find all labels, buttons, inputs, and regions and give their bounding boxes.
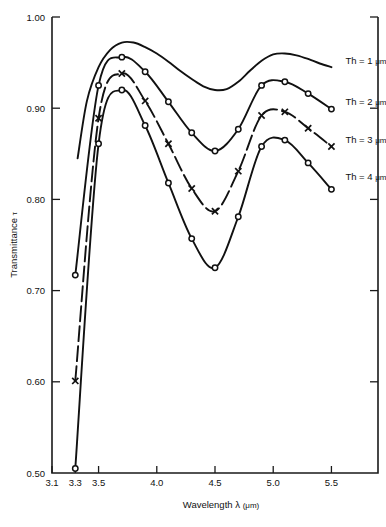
data-point-marker bbox=[236, 126, 241, 131]
series-label-3: Th = 3 μm bbox=[345, 134, 386, 145]
data-point-marker bbox=[166, 180, 171, 185]
data-point-marker bbox=[96, 141, 101, 146]
y-tick-label-0.80: 0.80 bbox=[27, 194, 46, 205]
x-tick-label-5.0: 5.0 bbox=[267, 477, 280, 488]
y-tick-label-0.70: 0.70 bbox=[27, 285, 46, 296]
data-point-marker bbox=[189, 236, 194, 241]
x-tick-label-3.3: 3.3 bbox=[69, 477, 82, 488]
data-point-marker bbox=[189, 185, 195, 191]
series-line-3 bbox=[75, 73, 331, 381]
series-label-4: Th = 4 μm bbox=[345, 171, 386, 182]
data-point-marker bbox=[142, 69, 147, 74]
x-tick-label-3.1: 3.1 bbox=[45, 477, 58, 488]
data-point-marker bbox=[73, 272, 78, 277]
data-point-marker bbox=[165, 141, 171, 147]
data-point-marker bbox=[259, 144, 264, 149]
data-point-marker bbox=[282, 137, 287, 142]
data-point-marker bbox=[189, 130, 194, 135]
transmittance-vs-wavelength-chart: 3.13.33.54.04.55.05.50.500.600.700.800.9… bbox=[0, 0, 386, 527]
data-point-marker bbox=[282, 79, 287, 84]
data-point-marker bbox=[119, 87, 124, 92]
data-point-marker bbox=[305, 160, 310, 165]
data-point-marker bbox=[119, 54, 124, 59]
y-axis-title: Transmittance τ bbox=[8, 211, 19, 277]
x-tick-label-3.5: 3.5 bbox=[92, 477, 105, 488]
data-point-marker bbox=[236, 214, 241, 219]
data-point-marker bbox=[329, 106, 334, 111]
series-label-2: Th = 2 μm bbox=[345, 96, 386, 107]
data-point-marker bbox=[212, 148, 217, 153]
data-point-marker bbox=[259, 83, 264, 88]
y-tick-label-0.60: 0.60 bbox=[27, 376, 46, 387]
series-label-1: Th = 1 μm bbox=[345, 55, 386, 66]
y-tick-label-1.00: 1.00 bbox=[27, 12, 46, 23]
x-tick-label-4.0: 4.0 bbox=[150, 477, 163, 488]
x-tick-label-5.5: 5.5 bbox=[325, 477, 338, 488]
data-point-marker bbox=[142, 98, 148, 104]
data-point-marker bbox=[305, 125, 311, 131]
series-line-1 bbox=[78, 42, 332, 159]
data-point-marker bbox=[305, 91, 310, 96]
y-tick-label-0.90: 0.90 bbox=[27, 103, 46, 114]
series-line-2 bbox=[75, 57, 331, 275]
x-axis-title: Wavelength λ (μm) bbox=[183, 499, 260, 510]
x-tick-label-4.5: 4.5 bbox=[208, 477, 221, 488]
data-point-marker bbox=[96, 83, 101, 88]
data-point-marker bbox=[73, 466, 78, 471]
data-point-marker bbox=[142, 123, 147, 128]
data-point-marker bbox=[258, 112, 264, 118]
data-point-marker bbox=[328, 143, 334, 149]
data-point-marker bbox=[166, 99, 171, 104]
y-tick-label-0.50: 0.50 bbox=[27, 468, 46, 479]
chart-figure: 3.13.33.54.04.55.05.50.500.600.700.800.9… bbox=[0, 0, 386, 527]
data-point-marker bbox=[329, 187, 334, 192]
data-point-marker bbox=[212, 265, 217, 270]
